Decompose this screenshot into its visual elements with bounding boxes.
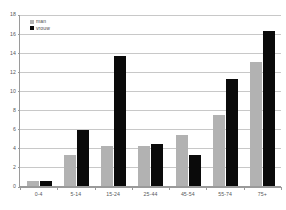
y-axis-tick-label: 2 (0, 165, 16, 170)
gridline (20, 187, 281, 188)
legend-entry-vrouw[interactable]: vrouw (30, 26, 50, 31)
legend-label: man (36, 19, 46, 24)
x-axis-tick-mark (132, 187, 133, 190)
bar-group (170, 15, 207, 186)
bar-man-25-44[interactable] (138, 146, 150, 186)
y-axis-tick-label: 16 (0, 32, 16, 37)
bar-group (207, 15, 244, 186)
legend-label: vrouw (36, 26, 50, 31)
bar-man-15-24[interactable] (101, 146, 113, 186)
plot-area (19, 15, 281, 187)
x-axis-tick-mark (206, 187, 207, 190)
y-axis-tick-mark (18, 53, 21, 54)
bar-vrouw-25-44[interactable] (151, 144, 163, 186)
bar-vrouw-55-74[interactable] (226, 79, 238, 186)
x-axis-tick-labels: 0-45-1415-2425-4445-5455-7475+ (20, 192, 281, 197)
bar-man-75+[interactable] (250, 62, 262, 186)
legend-swatch-icon (30, 20, 34, 24)
y-axis-tick-label: 8 (0, 108, 16, 113)
bar-vrouw-75+[interactable] (263, 31, 275, 186)
bar-group (21, 15, 58, 186)
legend-entry-man[interactable]: man (30, 19, 50, 24)
bar-group (58, 15, 95, 186)
y-axis-tick-mark (18, 72, 21, 73)
x-axis-tick-mark (281, 187, 282, 190)
y-axis-tick-label: 14 (0, 51, 16, 56)
bar-group (95, 15, 132, 186)
y-axis-tick-mark (18, 148, 21, 149)
x-axis-tick-label: 15-24 (95, 192, 132, 197)
y-axis-tick-mark (18, 167, 21, 168)
x-axis-tick-mark (169, 187, 170, 190)
x-axis-tick-label: 5-14 (57, 192, 94, 197)
bar-vrouw-15-24[interactable] (114, 56, 126, 186)
y-axis-tick-label: 12 (0, 70, 16, 75)
y-axis-tick-mark (18, 91, 21, 92)
bar-man-55-74[interactable] (213, 115, 225, 186)
x-axis-tick-label: 55-74 (206, 192, 243, 197)
y-axis-tick-label: 0 (0, 184, 16, 189)
y-axis-tick-label: 6 (0, 127, 16, 132)
x-axis-tick-label: 25-44 (132, 192, 169, 197)
y-axis-tick-mark (18, 129, 21, 130)
bar-vrouw-45-54[interactable] (189, 155, 201, 186)
x-axis-tick-label: 45-54 (169, 192, 206, 197)
bar-vrouw-0-4[interactable] (40, 181, 52, 186)
bar-chart: 024681012141618 0-45-1415-2425-4445-5455… (0, 0, 286, 210)
bar-man-5-14[interactable] (64, 155, 76, 186)
bar-man-0-4[interactable] (27, 181, 39, 186)
y-axis-tick-label: 4 (0, 146, 16, 151)
bar-group (132, 15, 169, 186)
legend-swatch-icon (30, 26, 34, 30)
y-axis-tick-mark (18, 110, 21, 111)
bar-man-45-54[interactable] (176, 135, 188, 186)
y-axis-tick-mark (18, 34, 21, 35)
x-axis-tick-label: 75+ (244, 192, 281, 197)
y-axis-tick-label: 10 (0, 89, 16, 94)
y-axis-tick-mark (18, 15, 21, 16)
chart-legend: manvrouw (30, 19, 50, 31)
bar-group (244, 15, 281, 186)
x-axis-tick-mark (244, 187, 245, 190)
bars-layer (21, 15, 281, 186)
y-axis-tick-label: 18 (0, 12, 16, 17)
x-axis-tick-mark (57, 187, 58, 190)
bar-vrouw-5-14[interactable] (77, 130, 89, 186)
x-axis-tick-mark (20, 187, 21, 190)
x-axis-tick-mark (95, 187, 96, 190)
x-axis-tick-label: 0-4 (20, 192, 57, 197)
